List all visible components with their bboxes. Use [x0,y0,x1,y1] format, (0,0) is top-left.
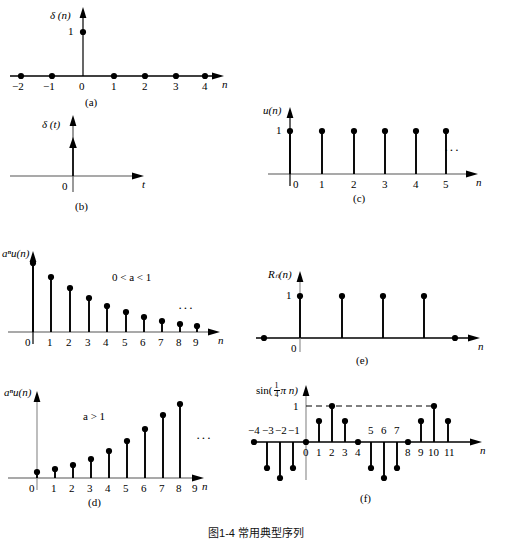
panel-c-unit-step: u(n) 1 0 1 2 3 4 5 ··· n (c) [248,92,512,208]
stem-group [34,401,183,478]
y-axis-arrow [303,385,310,396]
panel-f-tick-8: 8 [405,446,411,458]
panel-f-tick-6: 6 [381,424,387,436]
panel-decay-condition: 0 < a < 1 [112,271,151,283]
stem-head [381,475,387,481]
figure-bottom-caption: 图1-4 常用典型序列 [0,524,512,540]
stem-head [159,318,165,324]
stem-head [277,475,283,481]
panel-a-xlabel: n [222,78,228,90]
panel-decay-exponential: aⁿu(n) 0 < a < 1 ··· 0 1 2 3 4 5 6 7 8 9… [0,240,250,360]
stem-head [339,293,345,299]
panel-d-tick-1: 1 [51,482,57,494]
panel-d-condition: a > 1 [83,410,105,422]
panel-e-one-label: 1 [286,289,292,301]
stem-head [88,456,94,462]
stem-head [443,128,449,134]
sample-dot [111,73,117,79]
panel-decay-tick-2: 2 [66,336,72,348]
stem-head [264,465,270,471]
panel-c-ylabel: u(n) [263,104,281,116]
panel-decay-tick-0: 0 [25,336,31,348]
panel-f-tick-7: 7 [394,424,400,436]
stem-head [177,401,183,407]
panel-c-tick-5: 5 [443,178,449,190]
stem-head [160,412,166,418]
panel-decay-tick-4: 4 [103,336,109,348]
panel-decay-tick-5: 5 [122,336,128,348]
panel-d-caption: (d) [88,496,101,508]
stem-head [418,418,424,424]
panel-f-sine-sequence: sin( 1 4 π n) 1 −4 −3 −2 −1 0 1 2 3 4 5 … [248,380,512,520]
panel-decay-tick-1: 1 [47,336,53,348]
stem-head [421,293,427,299]
stem-head [194,323,200,329]
panel-a-tick--1: −1 [43,80,55,92]
stem-head [413,128,419,134]
panel-f-ylabel: sin( 1 4 π n) [256,382,298,398]
stem-head [30,260,36,266]
sample-dot [49,73,55,79]
panel-d-tick-6: 6 [141,482,147,494]
stem-head [123,309,129,315]
panel-a-tick-4: 4 [202,80,208,92]
y-axis-arrow [34,391,41,402]
stem-head [382,128,388,134]
stem-head [303,439,309,445]
y-axis-arrow [297,271,304,282]
panel-f-fraction: 1 4 [274,382,280,398]
panel-c-ellipsis: ··· [444,142,460,158]
panel-f-xlabel: n [480,444,486,456]
panel-f-ylabel-fn: sin( [256,384,273,396]
panel-decay-tick-9: 9 [193,336,199,348]
panel-d-tick-2: 2 [69,482,75,494]
panel-f-one-label: 1 [293,400,299,412]
panel-a-delta-n: δ (n) 1 −2 −1 0 1 2 3 4 n (a) [0,4,250,104]
panel-f-tick--3: −3 [262,424,274,436]
stem-head [104,303,110,309]
panel-d-growing-exponential: aⁿu(n) a > 1 ··· 0 1 2 3 4 5 6 7 8 9 n (… [0,378,250,513]
panel-b-ylabel: δ (t) [42,118,60,130]
panel-d-xlabel: n [202,480,208,492]
panel-c-plot [248,92,512,208]
stem-head [368,465,374,471]
panel-b-origin-label: 0 [62,180,68,192]
panel-a-tick-2: 2 [142,80,148,92]
impulse-arrowhead [69,137,77,148]
panel-c-tick-0: 0 [293,178,299,190]
panel-f-tick-1: 1 [316,446,322,458]
fraction-denominator: 4 [274,390,280,399]
panel-f-tick-10: 10 [428,446,439,458]
stem-group [297,293,427,338]
panel-a-tick-1: 1 [111,80,117,92]
stem-head [445,418,451,424]
stem-head [342,418,348,424]
sample-dot [18,73,24,79]
panel-c-tick-4: 4 [413,178,419,190]
stem-head [380,293,386,299]
panel-d-tick-7: 7 [159,482,165,494]
panel-d-tick-0: 0 [29,482,35,494]
panel-b-delta-t: δ (t) 0 t (b) [0,110,250,210]
stem-head [251,439,257,445]
zero-sample-dot [261,335,267,341]
panel-f-caption: (f) [360,492,371,504]
panel-decay-ylabel: aⁿu(n) [2,247,29,259]
stem-head [124,438,130,444]
stem-head [319,128,325,134]
panel-f-tick-4: 4 [355,446,361,458]
panel-c-caption: (c) [353,192,365,204]
panel-e-ylabel: Rₙ(n) [268,268,292,281]
sample-dot [142,73,148,79]
stem-head [67,285,73,291]
panel-c-tick-1: 1 [319,178,325,190]
fraction-numerator: 1 [274,382,280,390]
y-axis-arrow [80,7,87,18]
panel-d-ellipsis: ··· [196,430,212,446]
stem-head [141,314,147,320]
stem-head [287,128,293,134]
stem-head [106,448,112,454]
panel-f-tick-0: 0 [303,446,309,458]
stem-head [351,128,357,134]
stem-head [431,403,437,409]
